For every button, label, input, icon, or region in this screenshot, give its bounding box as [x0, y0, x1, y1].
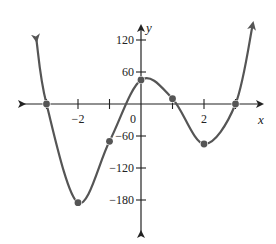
curve-path — [36, 24, 252, 203]
polynomial-graph: −20212060−60−120−180xy — [0, 0, 276, 244]
x-axis-label: x — [257, 112, 264, 127]
y-tick-label: −180 — [109, 193, 134, 207]
y-tick-label: −120 — [109, 161, 134, 175]
point-marker — [138, 77, 145, 84]
x-tick-label: −2 — [72, 112, 85, 126]
x-tick-label: 2 — [201, 112, 207, 126]
point-marker — [232, 101, 239, 108]
point-marker — [43, 101, 50, 108]
tick-labels: −20212060−60−120−180xy — [72, 20, 264, 207]
y-tick-label: 120 — [116, 33, 134, 47]
point-marker — [169, 95, 176, 102]
point-marker — [201, 141, 208, 148]
y-tick-label: −60 — [115, 129, 134, 143]
y-tick-label: 60 — [122, 65, 134, 79]
point-marker — [106, 138, 113, 145]
axes — [24, 26, 262, 232]
y-axis-label: y — [144, 20, 152, 35]
curve — [36, 24, 252, 203]
x-tick-label: 0 — [130, 112, 136, 126]
point-marker — [75, 199, 82, 206]
